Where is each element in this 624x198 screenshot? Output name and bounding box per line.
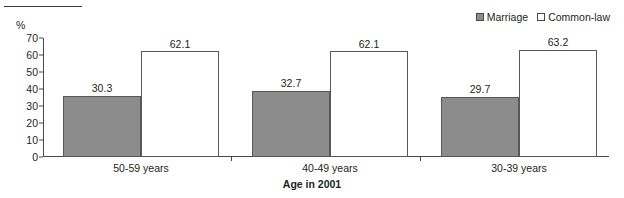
y-tick-mark-50 [39, 71, 43, 72]
legend-label-common-law: Common-law [548, 12, 610, 23]
x-axis-title: Age in 2001 [0, 179, 624, 190]
plot-area: 70 60 50 40 30 20 10 0 30.3 62.1 32.7 62… [43, 38, 609, 157]
x-category-label-30-39: 30-39 years [491, 163, 546, 174]
x-axis-group-separator [231, 157, 232, 161]
legend-item-common-law: Common-law [537, 12, 610, 23]
bar-value-label-common-law-50-59: 62.1 [170, 39, 190, 50]
y-tick-mark-20 [39, 123, 43, 124]
y-axis-unit-label: % [16, 20, 25, 31]
bar-common-law-40-49: 62.1 [330, 51, 408, 157]
y-axis-line [43, 38, 44, 157]
y-tick-mark-60 [39, 55, 43, 56]
legend-swatch-common-law-icon [537, 13, 545, 21]
legend-label-marriage: Marriage [487, 12, 528, 23]
x-axis-group-separator [420, 157, 421, 161]
bar-value-label-marriage-40-49: 32.7 [281, 78, 301, 89]
chart-page: Marriage Common-law % 70 60 50 40 30 20 … [0, 0, 624, 198]
x-category-label-40-49: 40-49 years [302, 163, 357, 174]
bar-value-label-marriage-50-59: 30.3 [92, 83, 112, 94]
bar-marriage-50-59: 30.3 [63, 96, 141, 157]
bar-value-label-common-law-40-49: 62.1 [359, 39, 379, 50]
y-tick-mark-70 [39, 38, 43, 39]
bar-marriage-40-49: 32.7 [252, 91, 330, 157]
y-tick-mark-0 [39, 157, 43, 158]
y-tick-mark-40 [39, 88, 43, 89]
bar-common-law-50-59: 62.1 [141, 51, 219, 157]
bar-common-law-30-39: 63.2 [519, 50, 597, 157]
y-tick-mark-30 [39, 106, 43, 107]
bar-value-label-marriage-30-39: 29.7 [470, 84, 490, 95]
y-tick-mark-10 [39, 139, 43, 140]
legend-item-marriage: Marriage [476, 12, 528, 23]
bar-value-label-common-law-30-39: 63.2 [548, 37, 568, 48]
bar-marriage-30-39: 29.7 [441, 97, 519, 157]
chart-legend: Marriage Common-law [476, 12, 610, 23]
legend-swatch-marriage-icon [476, 13, 484, 21]
top-rule-divider [4, 6, 82, 7]
x-category-label-50-59: 50-59 years [113, 163, 168, 174]
